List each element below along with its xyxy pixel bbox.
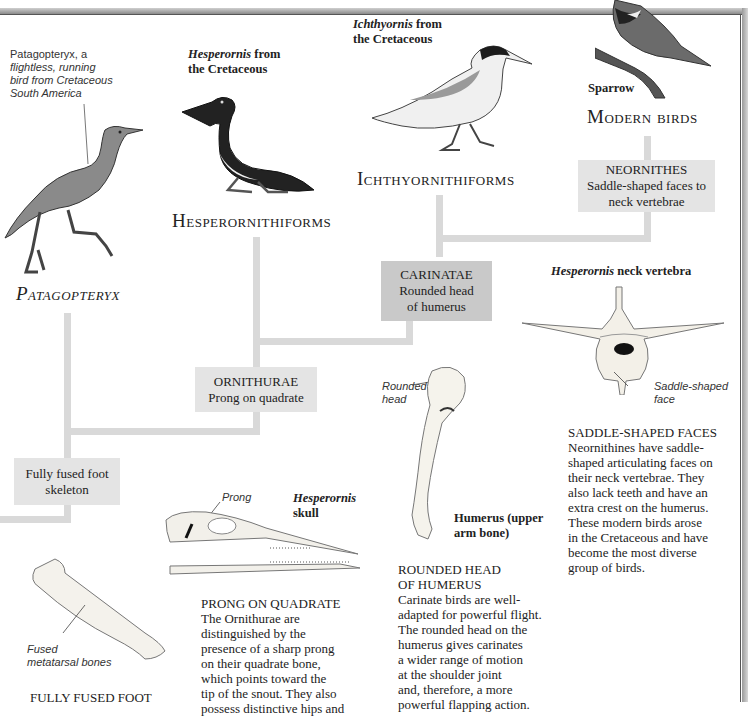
metatarsal-label: Fused metatarsal bones	[27, 643, 111, 669]
branch-ichthyornithiforms	[436, 195, 443, 257]
frame-right-rule	[740, 14, 741, 702]
foot-heading: FULLY FUSED FOOT	[30, 690, 200, 705]
hesperornis-illustration	[178, 80, 318, 200]
node-carinatae: CARINATAE Rounded head of humerus	[381, 261, 492, 321]
saddle-heading: SADDLE-SHAPED FACES	[568, 425, 738, 440]
vertebra-title-rest: neck vertebra	[614, 264, 691, 278]
branch-carinatae-join	[253, 338, 413, 345]
branch-neornithes-stem	[644, 210, 651, 242]
node-ornithurae: ORNITHURAE Prong on quadrate	[195, 367, 317, 412]
node-carinatae-name: CARINATAE	[381, 267, 492, 283]
fully-fused-foot-description: FULLY FUSED FOOT	[30, 690, 200, 705]
ichthyornis-illustration	[370, 40, 535, 160]
node-ornithurae-name: ORNITHURAE	[195, 374, 317, 390]
hesperornis-caption-genus: Hesperornis	[188, 47, 251, 61]
hesperornis-skull-illustration	[160, 500, 365, 580]
ichthyornis-caption-rest: from	[413, 17, 442, 31]
patagopteryx-caption-line-4: South America	[10, 87, 120, 100]
prong-on-quadrate-description: PRONG ON QUADRATE The Ornithurae are dis…	[201, 596, 371, 716]
frame-right-border	[742, 8, 748, 702]
hesperornis-caption: Hesperornis from the Cretaceous	[188, 47, 280, 77]
patagopteryx-illustration	[0, 100, 160, 280]
patagopteryx-title: Patagopteryx	[16, 283, 120, 305]
hesperornis-caption-line-2: the Cretaceous	[188, 62, 280, 77]
vertebra-title: Hesperornis neck vertebra	[551, 264, 691, 279]
humerus-title: Humerus (upper arm bone)	[454, 511, 543, 541]
rounded-heading-2: OF HUMERUS	[398, 577, 568, 592]
branch-root	[0, 516, 71, 523]
ichthyornithiforms-title: Ichthyornithiforms	[357, 168, 515, 190]
rounded-head-description: ROUNDED HEAD OF HUMERUS Carinate birds a…	[398, 562, 568, 712]
node-carinatae-trait-1: Rounded head	[381, 283, 492, 299]
node-ornithurae-trait-1: Prong on quadrate	[195, 390, 317, 406]
rounded-heading-1: ROUNDED HEAD	[398, 562, 568, 577]
vertebra-title-genus: Hesperornis	[551, 264, 614, 278]
node-neornithes-trait-2: neck vertebrae	[578, 194, 715, 210]
node-fused-foot-trait-2: skeleton	[14, 482, 120, 498]
hesperornis-caption-rest: from	[251, 47, 280, 61]
ichthyornis-caption-genus: Ichthyornis	[353, 17, 413, 31]
branch-ornithurae-join	[64, 428, 260, 435]
hesperornithiforms-title: Hesperornithiforms	[172, 210, 331, 232]
node-neornithes: NEORNITHES Saddle-shaped faces to neck v…	[578, 160, 715, 212]
node-fused-foot: Fully fused foot skeleton	[14, 458, 120, 505]
node-neornithes-name: NEORNITHES	[578, 162, 715, 178]
branch-modern-birds	[644, 136, 651, 162]
saddle-shaped-faces-description: SADDLE-SHAPED FACES Neornithines have sa…	[568, 425, 738, 575]
modern-birds-title: Modern birds	[587, 106, 698, 128]
branch-neornithes-join	[436, 235, 651, 242]
patagopteryx-caption-line-2: flightless, running	[10, 61, 120, 74]
node-neornithes-trait-1: Saddle-shaped faces to	[578, 178, 715, 194]
vertebra-leader-line	[612, 370, 632, 390]
patagopteryx-caption: Patagopteryx, a flightless, running bird…	[10, 48, 120, 100]
node-fused-foot-trait-1: Fully fused foot	[14, 466, 120, 482]
patagopteryx-caption-line-3: bird from Cretaceous	[10, 74, 120, 87]
sparrow-caption: Sparrow	[588, 81, 634, 96]
prong-heading: PRONG ON QUADRATE	[201, 596, 371, 611]
branch-carinatae-stem	[406, 320, 413, 345]
patagopteryx-caption-line-1: Patagopteryx, a	[10, 48, 87, 60]
node-carinatae-trait-2: of humerus	[381, 299, 492, 315]
vertebra-label: Saddle-shaped face	[654, 380, 728, 406]
